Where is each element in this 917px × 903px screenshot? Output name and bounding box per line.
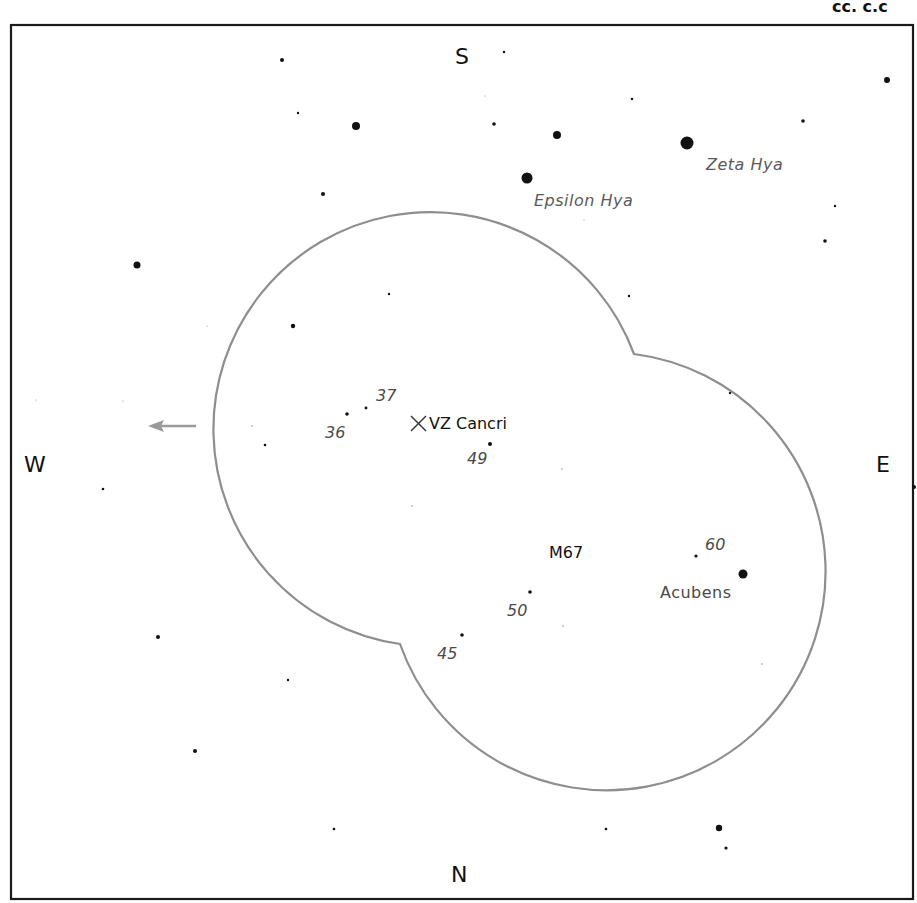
star-dot: [724, 846, 727, 849]
star-dot: [291, 324, 295, 328]
label-epsilon-hya: Epsilon Hya: [534, 191, 633, 210]
star-dot: [460, 633, 464, 637]
cardinal-south: S: [455, 44, 469, 69]
label-zeta-hya: Zeta Hya: [705, 155, 783, 174]
corner-caption: cc. c.c: [832, 0, 888, 16]
label-vz-cancri: VZ Cancri: [429, 414, 507, 433]
west-direction-arrow: [148, 420, 196, 432]
star-dot: [912, 485, 916, 489]
label-m67: M67: [549, 543, 583, 562]
star-dot: [503, 51, 505, 53]
cardinal-west: W: [24, 452, 46, 477]
star-dot: [264, 444, 267, 447]
star-dot: [488, 442, 492, 446]
star-dot: [193, 749, 197, 753]
field-of-view-outline: [213, 212, 825, 790]
star-dot: [583, 219, 584, 220]
star-dot: [834, 205, 836, 207]
star-dot: [388, 293, 390, 295]
mag-label-49: 49: [467, 449, 487, 468]
star-dot: [122, 400, 123, 401]
star-dot: [801, 119, 805, 123]
star-dot: [761, 663, 763, 665]
mag-label-36: 36: [325, 423, 345, 442]
star-dot: [345, 412, 349, 416]
mag-label-50: 50: [507, 601, 527, 620]
label-acubens: Acubens: [660, 583, 732, 602]
star-dot: [333, 828, 336, 831]
mag-label-37: 37: [376, 386, 397, 405]
star-dot: [681, 137, 694, 150]
star-dot: [716, 825, 722, 831]
star-dot: [522, 173, 533, 184]
star-dot: [628, 295, 630, 297]
target-marker: [411, 416, 426, 431]
star-dot: [134, 262, 141, 269]
star-dot: [35, 399, 36, 400]
star-dot: [352, 122, 360, 130]
star-dot: [823, 239, 827, 243]
star-dot: [297, 112, 299, 114]
star-dot: [287, 679, 289, 681]
star-dot: [884, 77, 890, 83]
star-dot: [694, 554, 697, 557]
star-dot: [484, 95, 485, 96]
star-dot: [156, 635, 160, 639]
star-chart: cc. c.c S N W E Zeta Hya Epsilon Hya Acu…: [0, 0, 917, 903]
star-dot: [605, 828, 608, 831]
star-dot: [562, 625, 564, 627]
star-dot: [411, 505, 413, 507]
star-dot: [365, 407, 368, 410]
cardinal-east: E: [876, 452, 890, 477]
star-dot: [631, 98, 633, 100]
mag-label-45: 45: [437, 644, 457, 663]
star-dot: [321, 192, 325, 196]
mag-label-60: 60: [705, 535, 725, 554]
star-dot: [102, 488, 105, 491]
cardinal-north: N: [451, 862, 467, 887]
star-dot: [251, 425, 253, 427]
star-dot: [528, 590, 532, 594]
star-dot: [561, 468, 563, 470]
star-dot: [553, 131, 561, 139]
star-dot: [739, 570, 748, 579]
star-dot: [206, 325, 207, 326]
star-dot: [280, 58, 284, 62]
star-dot: [492, 122, 496, 126]
